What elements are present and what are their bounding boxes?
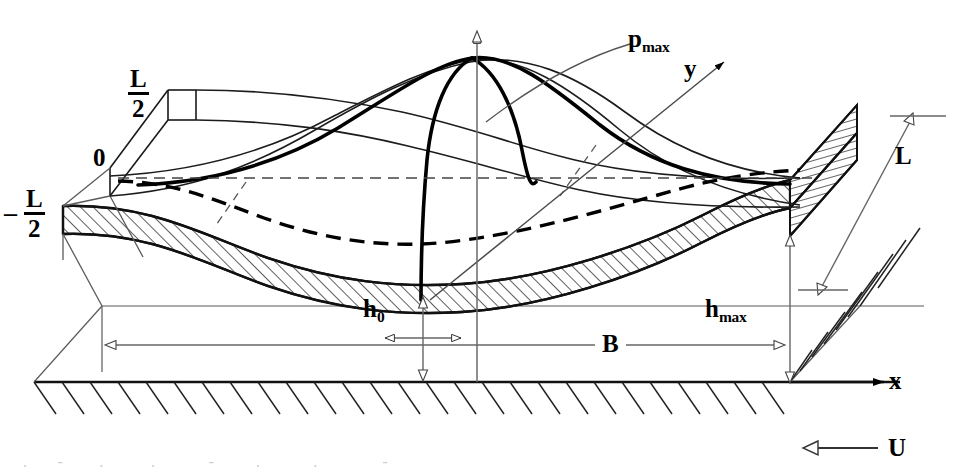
label-half-length-positive-denominator: 2 xyxy=(128,96,149,121)
scan-caption-remnant: . - . . - . . - xyxy=(0,452,954,469)
label-axis-y: y xyxy=(684,56,697,81)
label-axis-x: x xyxy=(889,368,902,393)
B-dimension xyxy=(102,306,785,372)
label-pressure-max: pmax xyxy=(628,26,669,51)
ground-hatching xyxy=(34,382,784,414)
label-film-thickness-max-subscript: max xyxy=(719,308,747,325)
label-length-L: L xyxy=(895,143,912,168)
label-half-length-negative-denominator: 2 xyxy=(24,216,45,241)
hmax-dimension xyxy=(786,235,795,383)
label-film-thickness-max-base: h xyxy=(705,295,719,322)
construction-dashed-lines xyxy=(214,145,596,228)
label-breadth-B: B xyxy=(595,331,626,356)
label-half-length-positive: L 2 xyxy=(128,66,149,121)
bearing-slab-end-face xyxy=(770,95,880,255)
pmax-leader xyxy=(486,44,630,122)
receding-wall-hatching xyxy=(790,228,920,382)
diagram-geometry xyxy=(34,31,946,455)
label-film-thickness-min-subscript: 0 xyxy=(377,308,384,325)
label-half-length-negative-numerator: L xyxy=(24,186,45,211)
label-minus-sign: – xyxy=(4,200,17,226)
label-film-thickness-max: hmax xyxy=(705,296,746,321)
label-pressure-max-base: p xyxy=(628,25,642,52)
label-breadth-B-text: B xyxy=(595,330,626,357)
L-dimension xyxy=(798,113,946,295)
label-origin: 0 xyxy=(93,145,106,170)
label-film-thickness-min: h0 xyxy=(363,296,384,321)
label-half-length-positive-numerator: L xyxy=(128,66,149,91)
label-film-thickness-min-base: h xyxy=(363,295,377,322)
pmax-dimension xyxy=(473,31,482,382)
label-pressure-max-subscript: max xyxy=(642,38,670,55)
ground-surface xyxy=(34,382,900,414)
figure-canvas: L 2 0 – L 2 pmax y x L h0 hmax B U xyxy=(0,0,954,469)
label-half-length-negative: – L 2 xyxy=(4,186,45,241)
